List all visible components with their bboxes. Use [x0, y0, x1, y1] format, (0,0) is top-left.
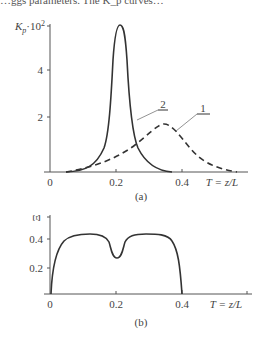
chart-b-ytick-label-0.2: 0.2 [29, 262, 43, 274]
chart-b-ytick-label-0.4: 0.4 [29, 233, 43, 245]
chart-b-panel-label: (b) [135, 316, 148, 329]
figure: Kp·102 4 2 0 0.2 0.4 T = z/L (a) 2 1 [0, 0, 273, 344]
chart-b-xtick-label-0.2: 0.2 [109, 298, 123, 310]
chart-a-xtick-label-0: 0 [47, 176, 53, 188]
chart-b-ylabel: Ξ [30, 214, 42, 221]
chart-a-annotation-2: 2 [160, 98, 166, 110]
chart-b-xtick-label-0.4: 0.4 [175, 298, 189, 310]
chart-a-annotation-1: 1 [200, 102, 206, 114]
chart-b-xtick-label-0: 0 [47, 298, 53, 310]
chart-a-series-2-line [66, 25, 172, 172]
chart-a-ylabel: Kp·102 [14, 19, 45, 35]
chart-a-annotation-2-leader [137, 110, 158, 120]
chart-a-ytick-label-2: 2 [38, 111, 44, 123]
chart-a-xlabel: T = z/L [206, 176, 238, 188]
chart-a-ytick-label-4: 4 [38, 64, 44, 76]
chart-a-annotation-1-leader [176, 114, 197, 131]
chart-a: Kp·102 4 2 0 0.2 0.4 T = z/L (a) 2 1 [14, 19, 248, 203]
chart-b-series-line [51, 234, 182, 294]
chart-a-xtick-label-0.2: 0.2 [109, 176, 123, 188]
chart-b: Ξ 0.4 0.2 0 0.2 0.4 T = z/L (b) [29, 214, 252, 329]
chart-b-xlabel: T = z/L [210, 298, 242, 310]
chart-a-panel-label: (a) [135, 190, 148, 203]
chart-a-xtick-label-0.4: 0.4 [175, 176, 189, 188]
